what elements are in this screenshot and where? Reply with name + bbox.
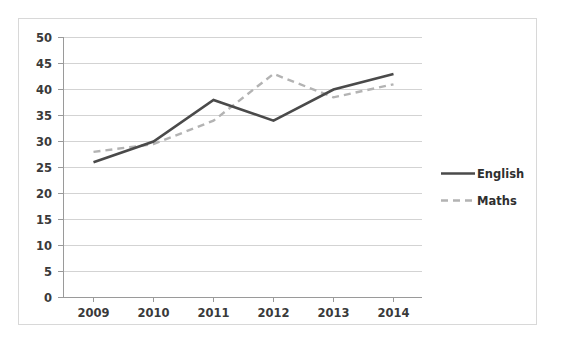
- data-series: [94, 74, 394, 162]
- y-tick-label-50: 50: [36, 31, 52, 45]
- legend-label-english: English: [477, 167, 524, 181]
- y-tick-label-15: 15: [36, 213, 52, 227]
- y-tick-label-10: 10: [36, 239, 52, 253]
- legend-label-maths: Maths: [477, 194, 517, 208]
- x-tick-label-2011: 2011: [197, 306, 229, 320]
- y-axis: [58, 37, 64, 298]
- chart-figure: 50 45 40 35 30 25 20 15 10 5 0 2009 2010…: [18, 18, 537, 325]
- x-tick-labels: 2009 2010 2011 2012 2013 2014: [77, 306, 409, 320]
- x-tick-label-2010: 2010: [137, 306, 169, 320]
- x-tick-label-2012: 2012: [257, 306, 289, 320]
- x-axis: [63, 298, 422, 303]
- series-line-english: [94, 74, 394, 162]
- y-tick-label-30: 30: [36, 135, 52, 149]
- y-tick-label-5: 5: [44, 265, 52, 279]
- y-tick-label-20: 20: [36, 187, 52, 201]
- line-chart-canvas: 50 45 40 35 30 25 20 15 10 5 0 2009 2010…: [19, 19, 538, 326]
- y-tick-label-0: 0: [44, 291, 52, 305]
- y-tick-label-45: 45: [36, 57, 52, 71]
- x-tick-label-2009: 2009: [77, 306, 109, 320]
- y-tick-labels: 50 45 40 35 30 25 20 15 10 5 0: [36, 31, 52, 305]
- y-tick-label-25: 25: [36, 161, 52, 175]
- x-tick-label-2013: 2013: [317, 306, 349, 320]
- x-tick-label-2014: 2014: [377, 306, 409, 320]
- legend: English Maths: [441, 167, 524, 208]
- y-tick-label-40: 40: [36, 83, 52, 97]
- y-tick-label-35: 35: [36, 109, 52, 123]
